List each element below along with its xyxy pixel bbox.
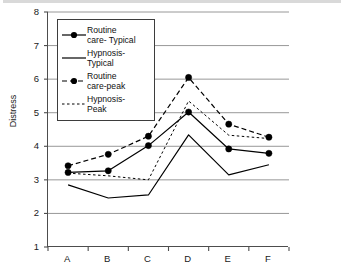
x-tick-label: A [57, 254, 77, 264]
legend-label: Routine care-peak [87, 70, 125, 91]
data-point [65, 163, 71, 169]
legend-key-icon [61, 93, 87, 115]
x-tick-label: D [178, 254, 198, 264]
x-tick-label: B [97, 254, 117, 264]
legend-item-2: Hypnosis- Typical [61, 47, 151, 69]
y-tick-label: 8 [23, 7, 39, 17]
legend-key-icon [61, 70, 87, 92]
data-point [185, 109, 191, 115]
chart-legend: Routine care- TypicalHypnosis- TypicalRo… [57, 19, 155, 121]
series-2 [68, 135, 269, 198]
y-tick-label: 4 [23, 141, 39, 151]
legend-item-3: Routine care-peak [61, 70, 151, 92]
line-chart-figure: Distress 12345678 ABCDEF Routine care- T… [0, 0, 341, 273]
legend-label: Hypnosis- Typical [87, 47, 125, 68]
x-tick-label: C [137, 254, 157, 264]
legend-key-icon [61, 47, 87, 69]
y-tick-label: 6 [23, 74, 39, 84]
y-tick-label: 7 [23, 41, 39, 51]
data-point [105, 151, 111, 157]
y-tick-marks [44, 12, 48, 247]
x-tick-marks [48, 247, 289, 251]
legend-item-1: Routine care- Typical [61, 24, 151, 46]
data-point [145, 133, 151, 139]
data-point [226, 121, 232, 127]
legend-key-swatch [61, 24, 87, 46]
legend-key-swatch [61, 47, 87, 69]
legend-label: Hypnosis- Peak [87, 93, 125, 114]
y-tick-label: 1 [23, 242, 39, 252]
legend-item-4: Hypnosis- Peak [61, 93, 151, 115]
legend-label: Routine care- Typical [87, 24, 136, 45]
y-tick-label: 3 [23, 175, 39, 185]
y-tick-label: 5 [23, 108, 39, 118]
data-point [65, 169, 71, 175]
data-point [226, 146, 232, 152]
y-axis-label: Distress [8, 76, 18, 146]
series-line [68, 135, 269, 198]
legend-key-swatch [61, 70, 87, 92]
data-point [266, 134, 272, 140]
data-point [105, 168, 111, 174]
data-point [185, 74, 191, 80]
data-point [145, 143, 151, 149]
x-tick-label: F [258, 254, 278, 264]
data-point [266, 150, 272, 156]
y-tick-label: 2 [23, 208, 39, 218]
series-line [68, 112, 269, 172]
x-tick-label: E [218, 254, 238, 264]
legend-key-swatch [61, 93, 87, 115]
legend-key-icon [61, 24, 87, 46]
